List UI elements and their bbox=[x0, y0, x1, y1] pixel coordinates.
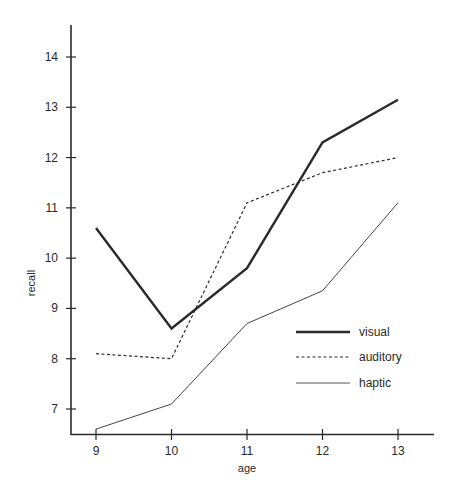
y-tick-label: 14 bbox=[45, 50, 59, 64]
y-tick-label: 12 bbox=[45, 151, 59, 165]
y-tick-label: 10 bbox=[45, 251, 59, 265]
x-axis-label: age bbox=[238, 462, 256, 474]
legend-item-haptic: haptic bbox=[296, 376, 391, 390]
x-axis: 910111213 bbox=[71, 429, 434, 458]
legend: visual auditory haptic bbox=[296, 325, 402, 390]
x-tick-label: 11 bbox=[241, 444, 254, 458]
legend-label-haptic: haptic bbox=[359, 376, 391, 390]
y-axis-label: recall bbox=[25, 270, 37, 296]
y-tick-label: 7 bbox=[51, 402, 58, 416]
x-tick-label: 12 bbox=[316, 444, 330, 458]
line-chart: 7891011121314 910111213 recall age visua… bbox=[0, 0, 453, 496]
x-tick-label: 10 bbox=[165, 444, 179, 458]
series-line-haptic bbox=[96, 203, 398, 429]
y-tick-label: 8 bbox=[51, 352, 58, 366]
y-tick-label: 13 bbox=[45, 100, 59, 114]
legend-label-auditory: auditory bbox=[359, 350, 402, 364]
series-line-visual bbox=[96, 100, 398, 329]
y-axis: 7891011121314 bbox=[45, 25, 76, 435]
series-lines bbox=[96, 100, 398, 429]
series-line-auditory bbox=[96, 158, 398, 359]
x-tick-label: 9 bbox=[93, 444, 100, 458]
x-tick-label: 13 bbox=[391, 444, 405, 458]
legend-item-visual: visual bbox=[296, 325, 390, 339]
y-tick-label: 11 bbox=[46, 201, 59, 215]
y-tick-label: 9 bbox=[51, 301, 58, 315]
legend-label-visual: visual bbox=[359, 325, 390, 339]
legend-item-auditory: auditory bbox=[296, 350, 402, 364]
